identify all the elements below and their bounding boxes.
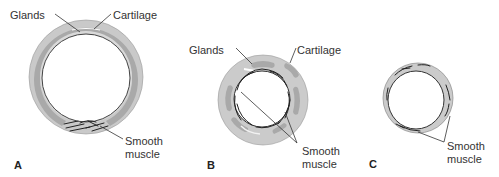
panel-b: Glands Cartilage Smooth muscle B — [189, 44, 341, 171]
panel-a: Glands Cartilage Smooth muscle A — [10, 9, 163, 171]
panel-a-muscle-label-2: muscle — [125, 148, 160, 160]
panel-a-cartilage-label: Cartilage — [113, 9, 157, 21]
panel-c-muscle-leader-1 — [418, 132, 444, 142]
panel-b-letter: B — [207, 159, 215, 171]
panel-b-cartilage-leader — [290, 48, 296, 63]
panel-c: Smooth muscle C — [369, 63, 485, 170]
panel-b-muscle-label-2: muscle — [302, 158, 337, 170]
panel-b-muscle-label-1: Smooth — [302, 145, 340, 157]
panel-b-cartilage-label: Cartilage — [297, 44, 341, 56]
panel-c-muscle-label-1: Smooth — [447, 140, 485, 152]
panel-a-glands-label: Glands — [10, 9, 45, 21]
panel-c-letter: C — [369, 158, 377, 170]
panel-c-lumen — [388, 71, 444, 129]
panel-c-muscle-label-2: muscle — [447, 153, 482, 165]
airway-diagram: Glands Cartilage Smooth muscle A — [0, 0, 499, 177]
panel-b-glands-label: Glands — [189, 44, 224, 56]
panel-a-muscle-label-1: Smooth — [125, 135, 163, 147]
panel-a-letter: A — [14, 159, 22, 171]
panel-a-lumen — [42, 34, 130, 122]
